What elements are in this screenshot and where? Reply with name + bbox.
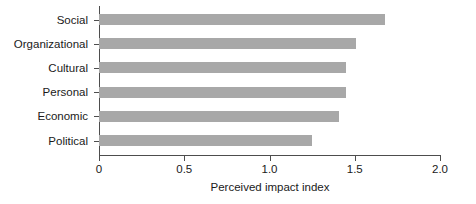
x-axis-tick: [440, 156, 441, 161]
bar-political: [99, 135, 312, 146]
x-axis-tick: [355, 156, 356, 161]
x-axis-tick: [99, 156, 100, 161]
x-axis-title: Perceived impact index: [99, 180, 441, 194]
y-axis-label-political: Political: [48, 135, 88, 147]
y-axis-label-cultural: Cultural: [48, 62, 88, 74]
bar-social: [99, 14, 385, 25]
bar-chart: SocialOrganizationalCulturalPersonalEcon…: [0, 0, 476, 204]
y-axis-tick: [94, 141, 99, 142]
bar-organizational: [99, 38, 356, 49]
y-axis-label-personal: Personal: [43, 86, 88, 98]
x-axis-tick: [184, 156, 185, 161]
x-axis-tick: [270, 156, 271, 161]
y-axis-category-labels: SocialOrganizationalCulturalPersonalEcon…: [0, 0, 94, 155]
y-axis-label-economic: Economic: [38, 110, 89, 122]
x-axis-tick-label: 2.0: [432, 163, 448, 176]
y-axis-tick: [94, 92, 99, 93]
y-axis-label-social: Social: [57, 14, 88, 26]
y-axis-tick: [94, 116, 99, 117]
x-axis-tick-label: 0.5: [176, 163, 192, 176]
y-axis-label-organizational: Organizational: [14, 38, 88, 50]
y-axis-tick: [94, 68, 99, 69]
y-axis-tick: [94, 20, 99, 21]
x-axis-tick-label: 1.5: [347, 163, 363, 176]
bar-personal: [99, 87, 346, 98]
bar-economic: [99, 111, 339, 122]
x-axis-tick-label: 0: [96, 163, 102, 176]
y-axis-tick: [94, 44, 99, 45]
x-axis-tick-label: 1.0: [262, 163, 278, 176]
plot-area: [99, 6, 440, 155]
bar-cultural: [99, 62, 346, 73]
